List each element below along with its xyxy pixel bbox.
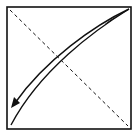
origami-diagram bbox=[0, 0, 138, 136]
